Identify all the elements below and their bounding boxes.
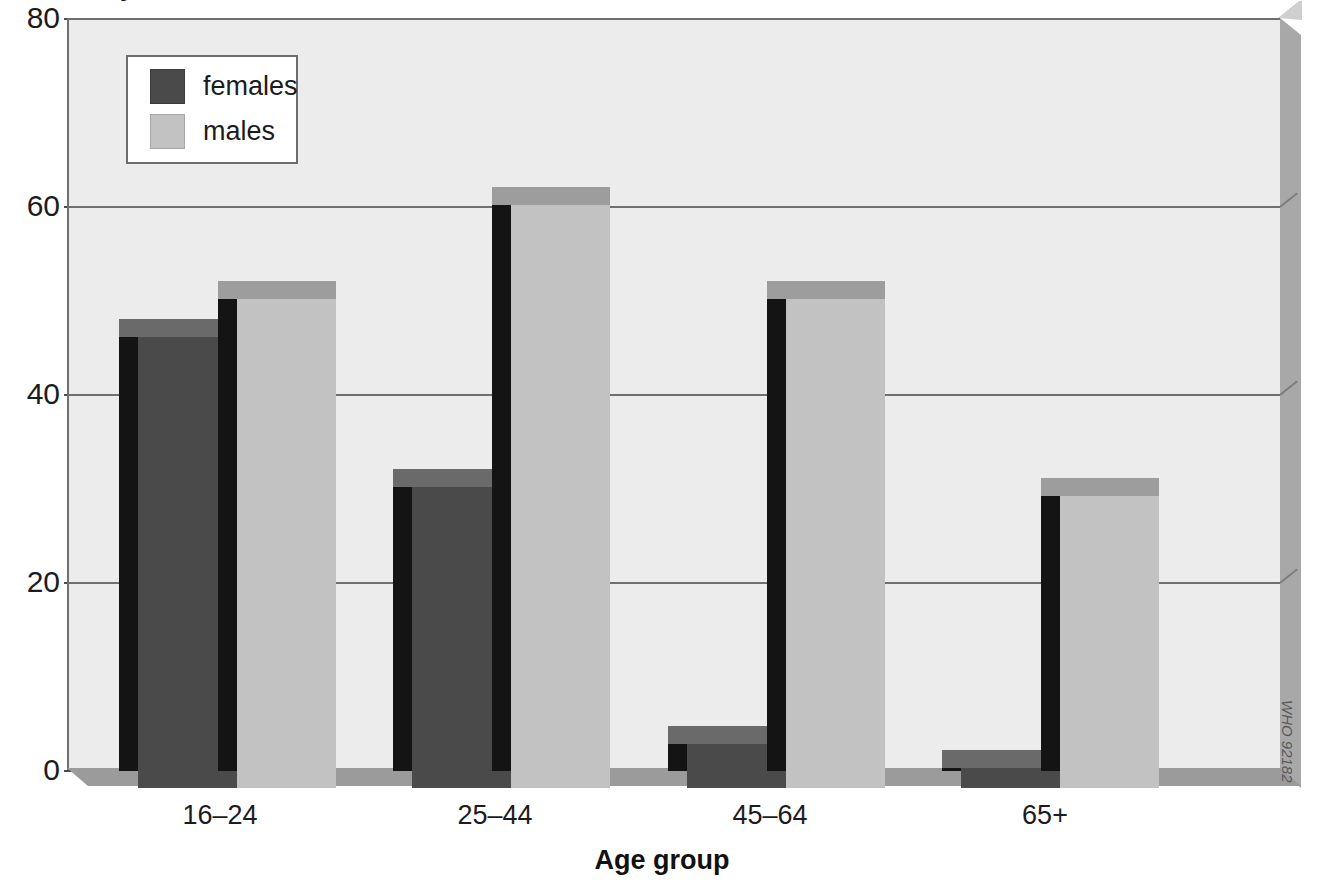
- legend: females males: [126, 55, 298, 164]
- who-reference-code: WHO 92182: [1279, 700, 1296, 783]
- chart-figure: y 80 60 40 20 0: [0, 0, 1324, 884]
- bar-side: [119, 319, 138, 771]
- plot-top-edge: [1278, 1, 1302, 20]
- plot-side-wall: [1280, 18, 1301, 788]
- bar-side: [393, 469, 412, 771]
- bar-males-65plus[interactable]: [1060, 478, 1159, 788]
- bar-top: [767, 281, 885, 299]
- bar-face: [1060, 496, 1159, 788]
- legend-swatch-females-icon: [150, 69, 185, 104]
- bar-side: [218, 281, 237, 771]
- y-tick-label-40: 40: [2, 379, 60, 409]
- bar-side: [492, 187, 511, 771]
- x-tick-label-25-44: 25–44: [415, 800, 575, 831]
- x-tick-label-45-64: 45–64: [690, 800, 850, 831]
- y-tick-label-20: 20: [2, 567, 60, 597]
- y-tick-label-0: 0: [2, 755, 60, 785]
- x-tick-label-16-24: 16–24: [140, 800, 300, 831]
- y-tick-label-80: 80: [2, 3, 60, 33]
- bar-side: [1041, 478, 1060, 771]
- bar-males-45-64[interactable]: [786, 281, 885, 788]
- bar-face: [961, 768, 1060, 788]
- bar-side: [767, 281, 786, 771]
- bar-face: [237, 299, 336, 788]
- legend-item-females[interactable]: females: [150, 69, 298, 104]
- bar-face: [511, 205, 610, 788]
- clipped-title-fragment: y: [120, 0, 135, 3]
- legend-label-males: males: [203, 118, 275, 145]
- bar-top: [492, 187, 610, 205]
- legend-swatch-males-icon: [150, 114, 185, 149]
- bar-top: [1041, 478, 1159, 496]
- x-tick-label-65plus: 65+: [965, 800, 1125, 831]
- legend-item-males[interactable]: males: [150, 114, 275, 149]
- bar-males-25-44[interactable]: [511, 187, 610, 788]
- x-axis-title: Age group: [0, 845, 1324, 876]
- bar-face: [786, 299, 885, 788]
- y-tick-label-60: 60: [2, 191, 60, 221]
- y-axis: 80 60 40 20 0: [0, 0, 60, 884]
- legend-label-females: females: [203, 73, 298, 100]
- bar-top: [218, 281, 336, 299]
- bar-males-16-24[interactable]: [237, 281, 336, 788]
